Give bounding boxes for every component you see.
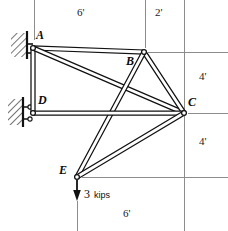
support-fixed-at-a (11, 31, 33, 59)
joint-label-a: A (36, 28, 44, 43)
truss-member-dc (33, 111, 184, 115)
load-unit: kips (94, 190, 110, 200)
dimension-label-top-right: 2' (155, 6, 162, 18)
dimension-label-top-left: 6' (77, 6, 84, 18)
joint-label-e: E (59, 163, 67, 178)
dimension-label-right-upper: 4' (199, 70, 206, 82)
support-d-hatching (8, 99, 23, 125)
dimension-label-right-lower: 4' (199, 135, 206, 147)
truss-member-ad (31, 48, 35, 113)
truss-joint-b (142, 50, 147, 55)
truss-joint-c (182, 111, 187, 116)
truss-joint-a (31, 46, 36, 51)
load-arrow-at-e (73, 180, 81, 201)
support-roller-at-d (8, 97, 32, 127)
truss-figure: A B C D E 6' 2' 4' 4' 6' 3 kips (0, 0, 228, 231)
load-label: 3 kips (84, 184, 110, 202)
support-d-roller-lower (28, 117, 32, 121)
joint-label-c: C (188, 95, 196, 110)
joint-label-d: D (38, 93, 47, 108)
dimension-label-bottom: 6' (123, 207, 130, 219)
truss-members (31, 46, 186, 179)
support-a-hatching (11, 33, 27, 57)
load-arrow-head (73, 190, 81, 201)
truss-joint-e (75, 175, 80, 180)
truss-joint-d (31, 111, 36, 116)
truss-drawing (0, 0, 228, 231)
joint-label-b: B (126, 54, 134, 69)
